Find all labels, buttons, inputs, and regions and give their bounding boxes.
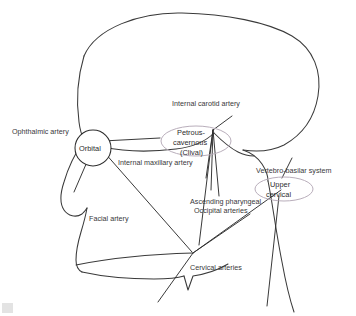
anatomy-canvas: Internal carotid artery Ophthalmic arter…	[0, 0, 356, 316]
label-ophthalmic-artery: Ophthalmic artery	[12, 127, 69, 136]
mandible-outline	[82, 272, 184, 279]
label-internal-maxillary-artery: Internal maxillary artery	[118, 158, 193, 167]
label-ascending-pharyngeal: Ascending pharyngeal	[190, 197, 262, 206]
label-vertebro-basilar-system: Vertebro-basilar system	[256, 166, 332, 175]
upper-lip-chin-outline	[76, 208, 87, 272]
label-upper-cervical-line2: cervical	[266, 190, 291, 199]
vessel-occipital	[193, 214, 250, 253]
anatomy-diagram: Internal carotid artery Ophthalmic arter…	[0, 0, 356, 316]
vessel-ophthalmic	[103, 138, 160, 141]
vessel-internal-carotid	[213, 116, 232, 130]
vessel-internal-maxillary	[104, 152, 192, 252]
label-orbital: Orbital	[79, 144, 101, 153]
label-internal-carotid-artery: Internal carotid artery	[172, 99, 240, 108]
label-petrous-cavernous-line1: Petrous-	[177, 128, 205, 137]
label-petrous-cavernous-line3: (Clival)	[180, 148, 203, 157]
jaw-to-neck-outline	[76, 253, 193, 265]
corner-artifact	[2, 303, 13, 313]
skull-base-anterior-outline	[78, 56, 84, 140]
vessel-petrous-branch-3	[213, 130, 219, 196]
label-petrous-cavernous-line2: cavernous	[173, 138, 207, 147]
label-cervical-arteries: Cervical arteries	[190, 263, 242, 272]
label-occipital-arteries: Occipital arteries	[194, 206, 248, 215]
vessel-cervical-to-chin	[158, 253, 193, 302]
label-upper-cervical-line1: Upper	[270, 180, 291, 189]
label-facial-artery: Facial artery	[89, 214, 129, 223]
